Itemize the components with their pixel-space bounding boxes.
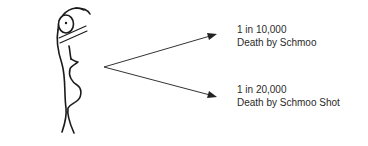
outcome-top: 1 in 10,000 Death by Schmoo	[237, 23, 317, 49]
diagram-drawing	[0, 0, 368, 146]
outcome-description: Death by Schmoo	[237, 36, 317, 49]
diagram: 1 in 10,000 Death by Schmoo 1 in 20,000 …	[0, 0, 368, 146]
outcome-odds: 1 in 20,000	[237, 83, 340, 96]
outcome-bottom: 1 in 20,000 Death by Schmoo Shot	[237, 83, 340, 109]
arrow-to-top-outcome	[104, 33, 217, 67]
outcome-odds: 1 in 10,000	[237, 23, 317, 36]
head-mirror-icon	[59, 15, 74, 33]
outcome-description: Death by Schmoo Shot	[237, 96, 340, 109]
arrow-to-bottom-outcome	[104, 67, 217, 98]
